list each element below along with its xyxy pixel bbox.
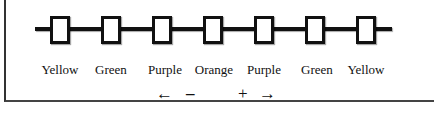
bead-label: Purple: [234, 62, 294, 78]
left-arrow-icon: ←: [156, 85, 173, 102]
plus-icon: +: [238, 85, 248, 102]
bead-label: Yellow: [336, 62, 396, 78]
minus-icon: –: [186, 85, 195, 102]
bead-6: [305, 16, 325, 44]
bead-label: Green: [81, 62, 141, 78]
bead-5: [254, 16, 274, 44]
bead-1: [50, 16, 70, 44]
bead-3: [152, 16, 172, 44]
bead-4: [203, 16, 223, 44]
right-arrow-icon: →: [259, 85, 276, 102]
bead-2: [101, 16, 121, 44]
bead-7: [356, 16, 376, 44]
